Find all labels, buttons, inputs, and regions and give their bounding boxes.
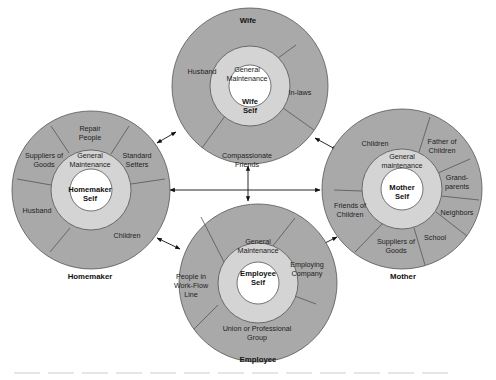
segment-label: Neighbors bbox=[441, 208, 474, 217]
arrow-homemaker-employee bbox=[157, 238, 180, 249]
segment-label: People bbox=[79, 133, 101, 142]
segment-label: Grand- bbox=[446, 173, 469, 182]
segment-label: Company bbox=[292, 269, 323, 278]
self-label: Self bbox=[83, 194, 97, 203]
inner-ring-label: General bbox=[234, 65, 260, 74]
role-diagram: Wife Husband In-laws Compassionate Frien… bbox=[0, 0, 496, 380]
role-title: Mother bbox=[390, 272, 416, 281]
segment-label: Employing bbox=[290, 260, 324, 269]
segment-label: Goods bbox=[385, 246, 407, 255]
segment-label: Work-Flow bbox=[174, 281, 209, 290]
segment-label: Suppliers of bbox=[377, 237, 415, 246]
self-label: Self bbox=[243, 106, 257, 115]
self-label: Self bbox=[395, 192, 409, 201]
inner-ring-label: General bbox=[77, 151, 103, 160]
segment-label: Group bbox=[247, 333, 267, 342]
segment-label: In-laws bbox=[289, 88, 312, 97]
self-label: Mother bbox=[389, 183, 414, 192]
segment-label: parents bbox=[445, 182, 469, 191]
role-circle-employee: Employing Company Union or Professional … bbox=[174, 204, 337, 364]
inner-ring-label: maintenance bbox=[381, 161, 422, 170]
arrow-wife-homemaker bbox=[157, 132, 176, 143]
faded-caption-line bbox=[14, 372, 454, 374]
segment-label: Children bbox=[337, 210, 364, 219]
role-circle-homemaker: Repair People Standard Setters Children … bbox=[12, 111, 170, 281]
segment-label: Children bbox=[114, 231, 141, 240]
inner-ring-label: General bbox=[389, 152, 415, 161]
segment-label: Children bbox=[429, 146, 456, 155]
inner-ring-label: Maintenance bbox=[237, 246, 278, 255]
segment-label: Setters bbox=[126, 160, 149, 169]
segment-label: Husband bbox=[188, 67, 217, 76]
self-label: Homemaker bbox=[68, 185, 112, 194]
inner-ring-label: Maintenance bbox=[69, 160, 110, 169]
role-title: Homemaker bbox=[68, 272, 113, 281]
segment-label: School bbox=[424, 233, 446, 242]
self-label: Wife bbox=[242, 97, 258, 106]
segment-label: Suppliers of bbox=[25, 151, 63, 160]
role-circle-wife: Wife Husband In-laws Compassionate Frien… bbox=[172, 8, 328, 169]
segment-label: Father of bbox=[428, 137, 457, 146]
segment-label: Repair bbox=[79, 124, 101, 133]
segment-label: Friends of bbox=[334, 201, 366, 210]
segment-label: Goods bbox=[33, 160, 55, 169]
inner-ring-label: Maintenance bbox=[226, 74, 267, 83]
segment-label: People in bbox=[176, 272, 206, 281]
self-label: Self bbox=[251, 278, 265, 287]
segment-label: Line bbox=[184, 290, 198, 299]
segment-label: Children bbox=[362, 139, 389, 148]
segment-label: Husband bbox=[23, 206, 52, 215]
inner-ring-label: General bbox=[245, 237, 271, 246]
segment-label: Compassionate bbox=[222, 151, 272, 160]
self-label: Employee bbox=[240, 269, 276, 278]
segment-label: Friends bbox=[235, 160, 259, 169]
segment-label: Union or Professional bbox=[223, 324, 292, 333]
segment-label: Standard bbox=[122, 151, 151, 160]
role-title: Wife bbox=[240, 16, 257, 25]
role-circle-mother: Children Father of Children Grand- paren… bbox=[322, 109, 482, 281]
role-title: Employee bbox=[240, 355, 277, 364]
